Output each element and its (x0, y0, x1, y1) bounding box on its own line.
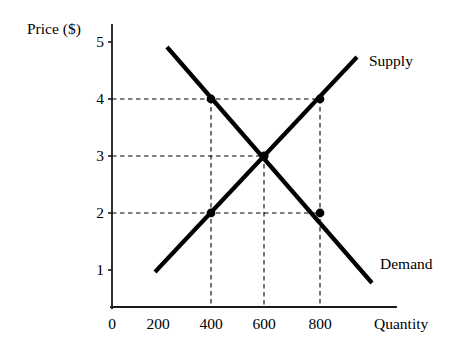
point-supply-400-2 (207, 209, 216, 218)
x-tick-label-200: 200 (138, 316, 178, 332)
supply-demand-chart: Price ($) 5 4 3 2 1 0 200 400 600 800 Qu… (0, 0, 460, 352)
y-tick-label-3: 3 (82, 148, 104, 164)
guide-lines-horizontal (112, 99, 321, 213)
point-demand-800-2 (316, 209, 325, 218)
demand-curve (167, 47, 372, 283)
supply-curve (155, 57, 357, 272)
demand-curve-label: Demand (380, 256, 433, 272)
supply-curve-label: Supply (369, 53, 413, 69)
x-tick-label-600: 600 (244, 316, 284, 332)
y-tick-label-1: 1 (82, 262, 104, 278)
point-equilibrium-600-3 (259, 151, 268, 160)
x-tick-label-800: 800 (300, 316, 340, 332)
y-axis-title: Price ($) (27, 21, 81, 37)
y-tick-label-5: 5 (82, 34, 104, 50)
point-demand-400-4 (207, 95, 216, 104)
x-axis-title: Quantity (374, 316, 428, 332)
point-supply-800-4 (316, 95, 325, 104)
x-tick-label-0: 0 (92, 316, 132, 332)
x-tick-label-400: 400 (191, 316, 231, 332)
y-tick-label-4: 4 (82, 91, 104, 107)
y-tick-label-2: 2 (82, 205, 104, 221)
